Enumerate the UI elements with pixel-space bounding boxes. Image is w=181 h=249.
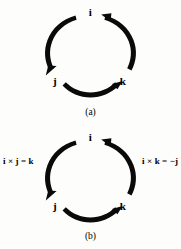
cyclic-diagram-b: i j k i × j = k i × k = −j (0, 125, 181, 230)
equation-i-cross-k: i × k = −j (142, 157, 178, 166)
panel-caption-b: (b) (0, 232, 181, 242)
arrow-k-to-i-a (101, 13, 136, 70)
figure-panel-b: i j k i × j = k i × k = −j (b) (0, 125, 181, 249)
vector-label-i-a: i (0, 7, 181, 18)
panel-caption-a: (a) (0, 108, 181, 118)
vector-label-k-b: k (112, 201, 134, 212)
vector-label-j-a: j (44, 76, 66, 87)
vector-label-k-a: k (112, 76, 134, 87)
arrow-i-to-j-a (45, 16, 77, 76)
equation-i-cross-j: i × j = k (3, 157, 34, 166)
vector-label-i-b: i (0, 132, 181, 143)
figure-panel-a: i j k (a) (0, 0, 181, 125)
vector-label-j-b: j (44, 201, 66, 212)
figure-sheet: i j k (a) (0, 0, 181, 249)
cyclic-diagram-a: i j k (0, 0, 181, 105)
arrow-k-to-i-b (101, 138, 136, 195)
arrow-i-to-j-b (45, 141, 77, 201)
